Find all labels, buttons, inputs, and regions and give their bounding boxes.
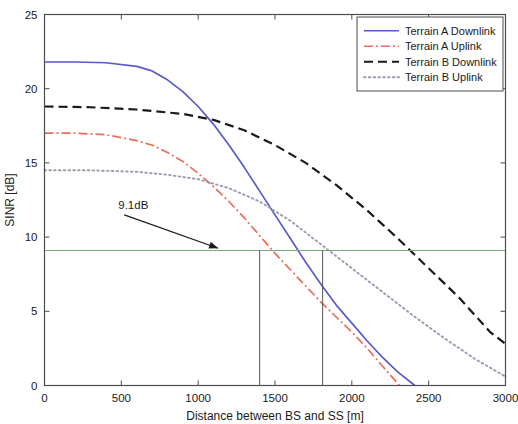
legend-label-terrain-a-downlink: Terrain A Downlink <box>405 25 496 37</box>
x-tick-label: 1000 <box>185 392 211 404</box>
chart-legend: Terrain A DownlinkTerrain A UplinkTerrai… <box>357 17 503 91</box>
legend-label-terrain-b-uplink: Terrain B Uplink <box>405 71 483 83</box>
y-tick-label: 5 <box>31 305 37 317</box>
x-tick-label: 500 <box>112 392 131 404</box>
x-tick-label: 3000 <box>493 392 518 404</box>
y-tick-label: 20 <box>25 83 38 95</box>
figure-container: 9.1dB 0500100015002000250030000510152025… <box>0 0 518 424</box>
y-tick-label: 10 <box>25 231 38 243</box>
x-tick-label: 2500 <box>416 392 442 404</box>
x-axis-title: Distance between BS and SS [m] <box>186 409 363 423</box>
x-tick-label: 1500 <box>262 392 288 404</box>
y-tick-label: 25 <box>25 9 38 21</box>
y-tick-label: 15 <box>25 157 38 169</box>
legend-label-terrain-a-uplink: Terrain A Uplink <box>405 40 482 52</box>
x-tick-label: 0 <box>41 392 47 404</box>
sinr-vs-distance-chart: 9.1dB 0500100015002000250030000510152025… <box>0 0 518 424</box>
y-axis-title: SINR [dB] <box>3 173 17 226</box>
annotation-label-threshold: 9.1dB <box>118 199 148 211</box>
legend-label-terrain-b-downlink: Terrain B Downlink <box>405 56 497 68</box>
x-tick-label: 2000 <box>339 392 365 404</box>
y-tick-label: 0 <box>31 380 37 392</box>
